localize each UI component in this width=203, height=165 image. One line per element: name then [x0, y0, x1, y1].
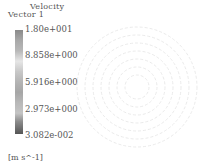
- colorbar-units: [m s^-1]: [8, 153, 43, 162]
- colorbar-tick-2: 8.858e+000: [25, 50, 78, 60]
- colorbar-tick-max: 1.80e+001: [25, 24, 72, 34]
- colorbar: [15, 30, 23, 134]
- legend-title-vector: Vector 1: [8, 10, 44, 19]
- colorbar-tick-3: 5.916e+000: [25, 77, 78, 87]
- colorbar-tick-4: 2.973e+000: [25, 104, 78, 114]
- colorbar-tick-min: 3.082e-002: [25, 130, 73, 140]
- vector-field-plot: [72, 20, 202, 155]
